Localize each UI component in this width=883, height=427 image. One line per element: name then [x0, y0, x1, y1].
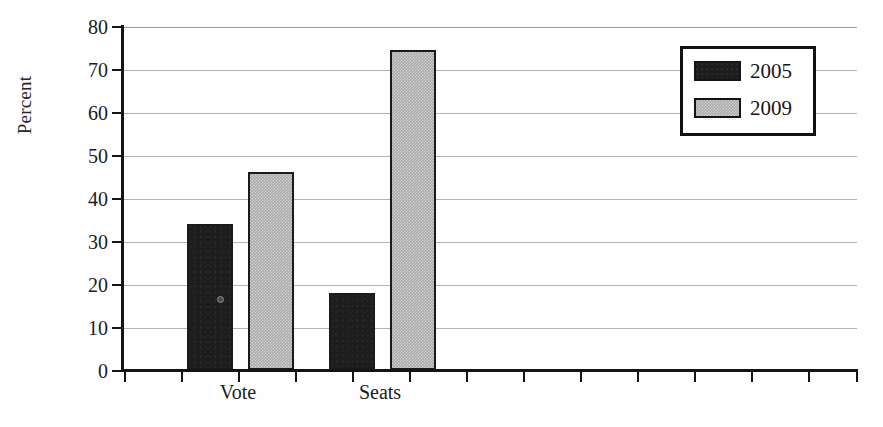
gray-swatch-icon	[694, 98, 741, 118]
bar-seats-2009	[390, 50, 436, 370]
legend-label-2005: 2005	[750, 61, 792, 82]
bar-vote-2009	[248, 172, 294, 370]
y-tick-label-20: 20	[62, 275, 108, 295]
x-tick-mark-7	[466, 371, 468, 382]
y-tick-label-0: 0	[62, 361, 108, 381]
y-tick-label-70: 70	[62, 60, 108, 80]
black-swatch-icon	[694, 61, 741, 81]
gridline-50	[124, 156, 857, 157]
x-tick-label-seats: Seats	[320, 381, 440, 404]
y-axis-title: Percent	[14, 40, 44, 170]
bar-seats-2005	[329, 293, 375, 370]
y-tick-label-60: 60	[62, 103, 108, 123]
gridline-20	[124, 285, 857, 286]
y-axis-line	[121, 25, 124, 372]
bar-vote-2005	[187, 224, 233, 370]
gridline-80	[124, 27, 857, 28]
x-tick-mark-14	[856, 371, 858, 382]
x-tick-mark-11	[694, 371, 696, 382]
chart-legend: 2005 2009	[680, 46, 816, 136]
x-tick-mark-10	[637, 371, 639, 382]
x-tick-label-vote: Vote	[178, 381, 298, 404]
scan-speck	[217, 296, 224, 303]
x-tick-mark-1	[124, 371, 126, 382]
y-tick-label-10: 10	[62, 318, 108, 338]
gridline-40	[124, 199, 857, 200]
x-tick-mark-13	[808, 371, 810, 382]
x-axis-line	[121, 369, 858, 372]
legend-entry-2005: 2005	[694, 56, 792, 86]
legend-entry-2009: 2009	[694, 93, 792, 123]
y-tick-label-80: 80	[62, 17, 108, 37]
y-tick-label-50: 50	[62, 146, 108, 166]
gridline-10	[124, 328, 857, 329]
x-tick-mark-12	[751, 371, 753, 382]
x-tick-mark-8	[523, 371, 525, 382]
y-tick-label-30: 30	[62, 232, 108, 252]
x-tick-mark-9	[580, 371, 582, 382]
gridline-30	[124, 242, 857, 243]
bar-chart-figure: Percent 80 70 60 50 40 30 20 10 0	[0, 0, 883, 427]
y-tick-label-40: 40	[62, 189, 108, 209]
legend-label-2009: 2009	[750, 98, 792, 119]
